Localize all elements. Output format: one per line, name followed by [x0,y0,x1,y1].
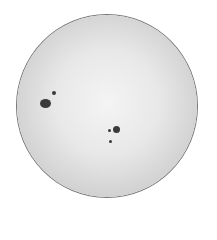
sunspot-large-left [40,99,51,108]
sunspot-small-left [52,91,56,95]
sunspot-small-right-b [109,140,112,143]
sunspot-right [113,126,120,133]
sunspot-small-right-a [108,129,111,132]
